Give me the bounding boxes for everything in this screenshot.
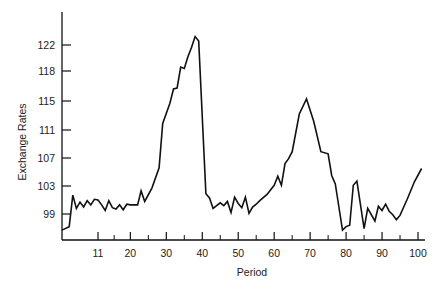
x-tick-label: 90 <box>376 247 388 259</box>
y-axis: 99103107111115118122 <box>37 12 71 240</box>
y-tick-label: 99 <box>43 208 55 220</box>
y-axis-label: Exchange Rates <box>16 103 28 180</box>
y-tick-label: 115 <box>38 95 55 107</box>
x-tick-label: 30 <box>160 247 172 259</box>
x-tick-label: 11 <box>93 247 104 259</box>
x-tick-label: 40 <box>196 247 208 259</box>
x-axis: 112030405060708090100 <box>62 232 427 259</box>
y-tick-label: 103 <box>37 180 55 192</box>
x-tick-label: 100 <box>409 247 427 259</box>
y-tick-label: 118 <box>38 65 55 77</box>
exchange-rate-line <box>62 37 422 231</box>
x-tick-label: 20 <box>125 247 137 259</box>
x-tick-label: 60 <box>268 247 280 259</box>
x-axis-label: Period <box>237 266 268 278</box>
y-tick-label: 107 <box>37 152 55 164</box>
x-tick-label: 80 <box>340 247 352 259</box>
y-tick-label: 111 <box>39 124 55 136</box>
line-chart: 99103107111115118122 1120304050607080901… <box>0 0 443 290</box>
x-tick-label: 70 <box>304 247 316 259</box>
x-tick-label: 50 <box>232 247 244 259</box>
y-tick-label: 122 <box>37 39 55 51</box>
